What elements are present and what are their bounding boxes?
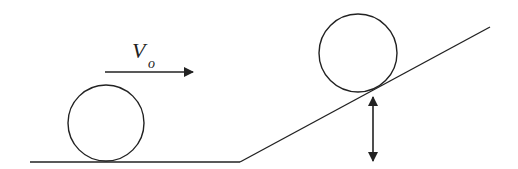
ball-on-incline xyxy=(319,14,397,92)
velocity-label-symbol: V xyxy=(132,38,145,64)
incline-line xyxy=(240,27,490,162)
physics-diagram xyxy=(0,0,518,169)
ball-start xyxy=(68,85,144,161)
velocity-label-subscript: o xyxy=(148,56,155,72)
